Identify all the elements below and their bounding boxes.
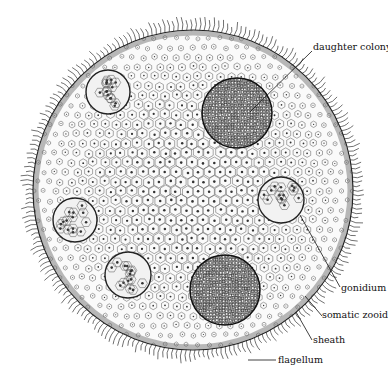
gonidium-3	[258, 177, 304, 223]
label-daughter-colony: daughter colony	[313, 42, 388, 52]
daughter-colony-4	[202, 78, 272, 148]
leader-somatic_zooid	[305, 296, 322, 316]
gonidium-1	[53, 198, 97, 242]
gonidium-2	[105, 252, 151, 298]
label-somatic-zooid: somatic zooid	[322, 310, 388, 320]
label-gonidium: gonidium	[341, 283, 386, 293]
gonidium-0	[86, 70, 130, 114]
daughter-colony-5	[190, 255, 260, 325]
label-flagellum: flagellum	[278, 355, 323, 365]
label-sheath: sheath	[313, 335, 345, 345]
